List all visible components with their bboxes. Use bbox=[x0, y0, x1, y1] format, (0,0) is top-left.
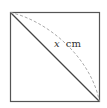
label-variable: x bbox=[54, 38, 60, 49]
geometry-diagram: x cm bbox=[0, 0, 107, 108]
label-unit: cm bbox=[66, 38, 82, 49]
arc-length-label: x cm bbox=[54, 38, 81, 49]
diagonal-line bbox=[11, 13, 100, 102]
